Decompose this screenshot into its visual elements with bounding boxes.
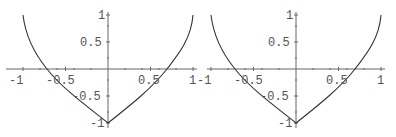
x-tick-label: -0.5 xyxy=(234,74,263,88)
x-tick-label: 0.5 xyxy=(326,74,348,88)
y-tick-label: 0.5 xyxy=(80,36,102,50)
y-tick-label: 1 xyxy=(98,9,105,23)
y-tick-label: 1 xyxy=(286,9,293,23)
x-tick-label: 0.5 xyxy=(138,74,160,88)
plot-left-canvas: -1 -0.5 0.5 1 1 0.5 -0.5 -1 xyxy=(0,0,198,137)
x-tick-label: -1 xyxy=(9,74,23,88)
plot-right: -1 -0.5 0.5 1 1 0.5 -0.5 -1 xyxy=(188,0,386,137)
y-tick-label: -1 xyxy=(278,117,292,131)
y-tick-label: 0.5 xyxy=(268,36,290,50)
x-tick-label: -0.5 xyxy=(46,74,75,88)
y-tick-label: -0.5 xyxy=(260,90,289,104)
x-tick-label: 1 xyxy=(377,74,384,88)
x-tick-label: -1 xyxy=(197,74,211,88)
plot-right-canvas: -1 -0.5 0.5 1 1 0.5 -0.5 -1 xyxy=(188,0,386,137)
y-tick-label: -0.5 xyxy=(72,90,101,104)
y-tick-label: -1 xyxy=(90,117,104,131)
plot-left: -1 -0.5 0.5 1 1 0.5 -0.5 -1 xyxy=(0,0,198,137)
